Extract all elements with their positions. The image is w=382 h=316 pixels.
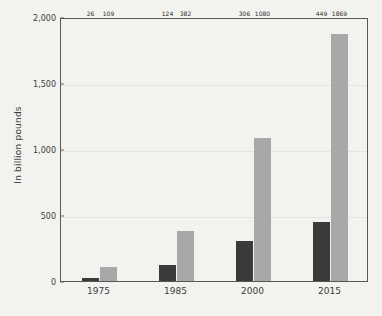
bar: 449 (313, 222, 330, 281)
bar-group: 124382 (138, 19, 215, 281)
y-axis-tick-labels: 05001,0001,5002,000 (24, 18, 56, 282)
bar-value-label: 449 (316, 11, 327, 17)
x-axis-tick-label: 1985 (164, 286, 187, 296)
bar: 109 (100, 267, 117, 281)
bar-value-label: 124 (162, 11, 173, 17)
x-axis-tick-label: 2000 (241, 286, 264, 296)
bar: 26 (82, 278, 99, 281)
bar-value-label: 1080 (255, 11, 270, 17)
x-axis-tick-labels: 1975198520002015 (60, 286, 368, 302)
bar-group: 4491869 (292, 19, 369, 281)
bar-item: 449 (313, 19, 330, 281)
bar-item: 382 (177, 19, 194, 281)
bar: 1080 (254, 138, 271, 281)
y-axis-tick-label: 2,000 (33, 14, 56, 23)
bar-group: 26109 (61, 19, 138, 281)
bar: 306 (236, 241, 253, 281)
bar-item: 124 (159, 19, 176, 281)
y-axis-tick-label: 1,500 (33, 80, 56, 89)
bar-chart: In billion pounds 05001,0001,5002,000 26… (0, 0, 382, 316)
plot-area: 2610912438230610804491869 (60, 18, 368, 282)
bar-item: 26 (82, 19, 99, 281)
y-axis-tick-label: 0 (51, 278, 56, 287)
bar: 1869 (331, 34, 348, 281)
bar: 124 (159, 265, 176, 281)
bar-value-label: 382 (180, 11, 191, 17)
y-axis-title-text: In billion pounds (13, 106, 23, 183)
bar-value-label: 109 (103, 11, 114, 17)
bar-group: 3061080 (215, 19, 292, 281)
bar-item: 1869 (331, 19, 348, 281)
bar-value-label: 26 (87, 11, 95, 17)
x-axis-tick-label: 1975 (87, 286, 110, 296)
bar-item: 109 (100, 19, 117, 281)
bar-item: 306 (236, 19, 253, 281)
y-axis-tick-label: 500 (41, 212, 56, 221)
y-axis-tick-label: 1,000 (33, 146, 56, 155)
x-axis-tick-label: 2015 (318, 286, 341, 296)
bar-item: 1080 (254, 19, 271, 281)
bar-value-label: 1869 (332, 11, 347, 17)
bar: 382 (177, 231, 194, 281)
bar-value-label: 306 (239, 11, 250, 17)
bars-layer: 2610912438230610804491869 (61, 19, 367, 281)
